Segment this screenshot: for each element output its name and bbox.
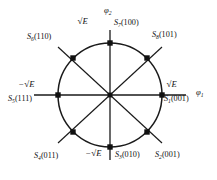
point-marker-s8 — [144, 55, 149, 60]
point-marker-s4 — [70, 129, 75, 134]
constellation-diagram: { "diagram": { "type": "8-PSK signal con… — [0, 0, 217, 180]
signal-label-s4: S4(011) — [34, 152, 58, 161]
amplitude-right-value: E — [171, 79, 176, 89]
amplitude-bottom-value: E — [96, 148, 101, 158]
signal-label-s3: S3(010) — [115, 151, 140, 160]
signal-label-s2: S2(001) — [155, 151, 180, 160]
point-marker-s7 — [107, 40, 112, 45]
signal-label-s1: S1(001) — [164, 95, 189, 104]
signal-label-s5: S5(111) — [8, 95, 32, 104]
point-marker-s2 — [144, 129, 149, 134]
amplitude-left-value: E — [29, 79, 34, 89]
axis-label-phi2: φ2 — [104, 6, 112, 16]
amplitude-label-bottom: −E — [86, 149, 102, 158]
center-marker — [108, 93, 113, 98]
axis-label-phi2-subscript: 2 — [109, 10, 112, 16]
constellation-canvas — [0, 0, 217, 180]
point-marker-s3 — [107, 144, 112, 149]
point-marker-s5 — [55, 92, 60, 97]
point-marker-s6 — [70, 55, 75, 60]
amplitude-label-top: E — [77, 17, 88, 26]
axis-label-phi1-subscript: 1 — [201, 92, 204, 98]
signal-label-s7: S7(100) — [114, 19, 139, 28]
axis-label-phi1: φ1 — [196, 88, 204, 98]
signal-label-s8: S8(101) — [152, 31, 177, 40]
amplitude-label-right: E — [166, 80, 177, 89]
signal-label-s6: S6(110) — [27, 33, 51, 42]
amplitude-top-value: E — [82, 16, 87, 26]
amplitude-label-left: −E — [19, 80, 35, 89]
